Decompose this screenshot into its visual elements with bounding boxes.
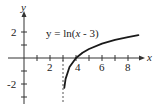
- x-tick-label-4: 4: [75, 61, 81, 73]
- y-tick-label-2: 2: [11, 26, 17, 38]
- y-tick-label-neg2: -2: [7, 78, 16, 90]
- y-axis-label: y: [20, 1, 26, 13]
- x-axis-arrow-icon: [139, 56, 145, 61]
- x-axis-label: x: [146, 51, 152, 63]
- x-tick-label-8: 8: [125, 61, 131, 73]
- equation-label: y = ln(x - 3): [46, 27, 99, 40]
- plot: 2 4 6 8 2 -2 x y y = ln(x - 3): [0, 0, 154, 111]
- x-tick-label-2: 2: [47, 61, 53, 73]
- x-tick-label-6: 6: [99, 61, 105, 73]
